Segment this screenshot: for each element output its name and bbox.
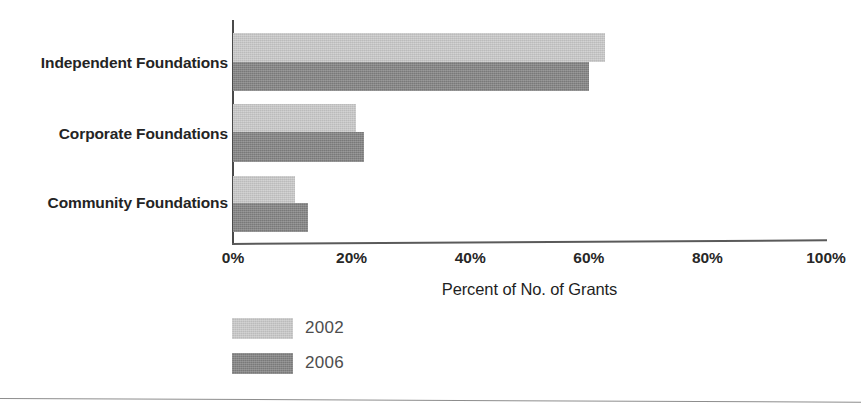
x-tick-label-2: 40% <box>455 250 486 266</box>
bar-independent-foundations-2002 <box>233 33 605 62</box>
page-divider-rule <box>0 398 861 403</box>
legend-swatch-2006 <box>232 353 293 374</box>
category-label-corporate-foundations: Corporate Foundations <box>59 126 228 142</box>
x-tick-label-3: 60% <box>573 250 604 266</box>
x-tick-label-1: 20% <box>336 250 367 266</box>
x-tick-label-0: 0% <box>222 250 244 266</box>
x-tick-label-4: 80% <box>692 250 723 266</box>
bar-corporate-foundations-2006 <box>233 132 364 162</box>
category-label-community-foundations: Community Foundations <box>48 195 228 211</box>
horizontal-bar-chart: Independent Foundations Corporate Founda… <box>0 0 861 417</box>
category-label-independent-foundations: Independent Foundations <box>41 55 228 71</box>
bar-community-foundations-2006 <box>233 203 308 232</box>
x-tick-label-5: 100% <box>806 250 846 266</box>
legend-label-2002: 2002 <box>305 317 344 339</box>
bar-corporate-foundations-2002 <box>233 104 356 132</box>
legend-label-2006: 2006 <box>305 352 344 374</box>
bar-independent-foundations-2006 <box>233 62 589 91</box>
bar-community-foundations-2002 <box>233 176 295 203</box>
plot-area <box>233 20 826 244</box>
legend-swatch-2002 <box>232 318 293 339</box>
x-axis-title: Percent of No. of Grants <box>233 280 826 299</box>
